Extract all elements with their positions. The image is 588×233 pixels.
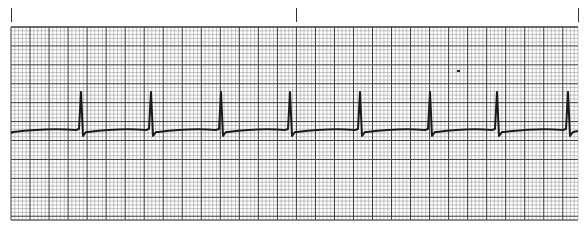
ecg-grid bbox=[11, 27, 578, 220]
ecg-strip bbox=[0, 0, 588, 233]
artifact-mark bbox=[457, 70, 460, 72]
